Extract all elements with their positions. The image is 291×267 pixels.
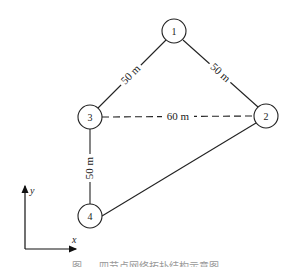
node-2-label: 2 (264, 111, 269, 122)
edge-4-2 (102, 123, 256, 216)
node-4: 4 (78, 204, 102, 228)
nodes: 1 2 3 4 (78, 19, 278, 228)
x-axis-label: x (71, 234, 77, 245)
node-2: 2 (254, 104, 278, 128)
node-1: 1 (162, 19, 186, 43)
edge-label-3-4: 50 m (83, 156, 95, 179)
node-4-label: 4 (88, 211, 93, 222)
edge-label-3-2: 60 m (167, 110, 190, 122)
network-diagram: 50 m 50 m 60 m 50 m 1 2 3 4 (0, 0, 291, 267)
node-3: 3 (78, 105, 102, 129)
edges (90, 40, 258, 216)
figure-caption: 图 — 四节点网络拓扑结构示意图 (0, 259, 291, 267)
edge-labels: 50 m 50 m 60 m 50 m (83, 58, 235, 182)
node-1-label: 1 (172, 26, 177, 37)
node-3-label: 3 (88, 112, 93, 123)
y-axis-label: y (29, 185, 35, 196)
